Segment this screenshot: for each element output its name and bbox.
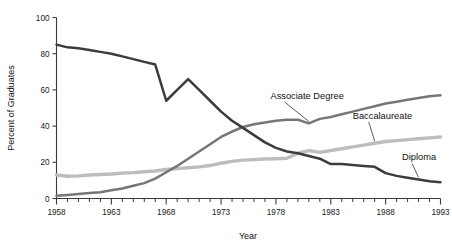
x-tick-label: 1983 bbox=[322, 208, 341, 217]
x-tick-label: 1968 bbox=[157, 208, 176, 217]
x-axis-tick-labels: 19581963196819731978198319881993 bbox=[47, 208, 450, 217]
y-axis-tick-labels: 020406080100 bbox=[36, 14, 50, 204]
x-tick-label: 1978 bbox=[267, 208, 286, 217]
series-label-diploma: Diploma bbox=[402, 152, 437, 162]
x-tick-label: 1988 bbox=[377, 208, 396, 217]
y-tick-label: 80 bbox=[40, 50, 50, 59]
y-tick-label: 0 bbox=[45, 195, 50, 204]
series-label-associate-degree: Associate Degree bbox=[270, 91, 343, 101]
y-axis-title: Percent of Graduates bbox=[6, 65, 16, 151]
y-tick-label: 100 bbox=[36, 14, 50, 23]
y-tick-label: 40 bbox=[40, 122, 50, 131]
series-label-baccalaureate: Baccalaureate bbox=[353, 111, 412, 121]
x-tick-label: 1958 bbox=[47, 208, 66, 217]
y-tick-label: 60 bbox=[40, 86, 50, 95]
x-tick-label: 1963 bbox=[102, 208, 121, 217]
x-tick-label: 1993 bbox=[431, 208, 450, 217]
y-tick-label: 20 bbox=[40, 158, 50, 167]
x-tick-label: 1973 bbox=[212, 208, 231, 217]
x-axis-title: Year bbox=[239, 231, 257, 241]
line-chart: 020406080100 195819631968197319781983198… bbox=[0, 0, 452, 245]
chart-container: 020406080100 195819631968197319781983198… bbox=[0, 0, 452, 245]
